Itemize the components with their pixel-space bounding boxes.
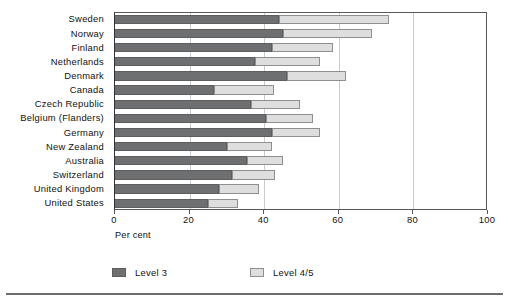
bar-segment-level-3 (115, 128, 272, 137)
bar-segment-level-45 (279, 15, 389, 24)
bar-row (115, 169, 486, 182)
bar-segment-level-45 (251, 100, 299, 109)
bar-row (115, 56, 486, 69)
bar-segment-level-45 (227, 142, 272, 151)
bar-row (115, 98, 486, 111)
bar-row (115, 127, 486, 140)
bar-segment-level-3 (115, 100, 251, 109)
bar-row (115, 84, 486, 97)
bar-segment-level-45 (208, 199, 238, 208)
category-label: Denmark (64, 69, 104, 82)
bar-row (115, 183, 486, 196)
bar-segment-level-45 (283, 29, 373, 38)
bar-segment-level-45 (287, 71, 347, 80)
category-label: Germany (64, 126, 104, 139)
bar-series-group (115, 13, 486, 209)
category-label: Finland (72, 41, 105, 54)
bar-row (115, 112, 486, 125)
bar-row (115, 28, 486, 41)
legend-entry: Level 3 (112, 265, 167, 279)
legend-entry: Level 4/5 (250, 265, 314, 279)
bar-segment-level-3 (115, 43, 272, 52)
bar-segment-level-3 (115, 71, 287, 80)
bar-segment-level-3 (115, 57, 255, 66)
plot-area (114, 12, 487, 210)
chart-legend: Level 3Level 4/5 (0, 265, 509, 281)
x-tick-label: 60 (332, 214, 343, 225)
bar-segment-level-45 (272, 128, 320, 137)
category-label: Czech Republic (35, 97, 104, 110)
x-tick-label: 0 (111, 214, 117, 225)
category-label: Switzerland (53, 168, 104, 181)
bar-segment-level-45 (255, 57, 320, 66)
category-label: Netherlands (51, 55, 104, 68)
bar-segment-level-3 (115, 114, 266, 123)
bar-segment-level-45 (272, 43, 334, 52)
bar-row (115, 70, 486, 83)
bar-row (115, 141, 486, 154)
category-label: Sweden (69, 12, 104, 25)
bar-segment-level-45 (232, 170, 275, 179)
category-axis-labels: SwedenNorwayFinlandNetherlandsDenmarkCan… (0, 12, 108, 210)
legend-swatch (112, 268, 126, 277)
bar-segment-level-3 (115, 156, 247, 165)
bar-segment-level-45 (219, 184, 258, 193)
bar-row (115, 197, 486, 210)
bar-row (115, 155, 486, 168)
category-label: New Zealand (46, 140, 104, 153)
x-tick-label: 20 (183, 214, 194, 225)
category-label: United States (44, 196, 104, 209)
category-label: United Kingdom (34, 182, 104, 195)
x-axis-title: Per cent (115, 230, 151, 240)
bar-segment-level-45 (266, 114, 313, 123)
bar-segment-level-3 (115, 85, 214, 94)
bar-segment-level-3 (115, 170, 232, 179)
x-tick-label: 80 (407, 214, 418, 225)
category-label: Belgium (Flanders) (20, 111, 104, 124)
category-label: Australia (65, 154, 104, 167)
bar-row (115, 13, 486, 26)
x-tick-label: 40 (258, 214, 269, 225)
legend-swatch (250, 268, 264, 277)
bar-segment-level-3 (115, 199, 208, 208)
bar-segment-level-3 (115, 184, 219, 193)
x-tick-label: 100 (479, 214, 496, 225)
legend-label: Level 4/5 (273, 267, 314, 278)
category-label: Norway (71, 27, 104, 40)
bar-segment-level-3 (115, 15, 279, 24)
legend-label: Level 3 (135, 267, 167, 278)
bar-segment-level-45 (214, 85, 274, 94)
category-label: Canada (70, 83, 104, 96)
bar-segment-level-3 (115, 142, 227, 151)
footer-divider (6, 293, 503, 295)
bar-row (115, 42, 486, 55)
x-axis: 020406080100 (114, 210, 487, 230)
chart-figure: SwedenNorwayFinlandNetherlandsDenmarkCan… (0, 0, 509, 301)
bar-segment-level-3 (115, 29, 283, 38)
bar-segment-level-45 (247, 156, 282, 165)
